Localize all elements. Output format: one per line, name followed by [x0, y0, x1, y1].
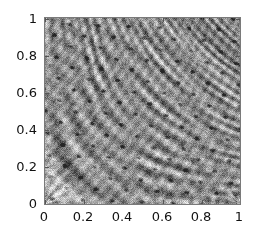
y-tick-mark — [45, 56, 49, 57]
x-tick-mark-top — [240, 18, 241, 22]
y-tick-mark-right — [236, 19, 240, 20]
x-tick-mark — [84, 200, 85, 204]
x-tick-mark — [163, 200, 164, 204]
y-tick-mark-right — [236, 93, 240, 94]
density-plot-figure: 0 0.2 0.4 0.6 0.8 1 0 0.2 0.4 0.6 0.8 1 — [0, 0, 259, 238]
x-tick-mark-top — [123, 18, 124, 22]
density-heatmap-canvas — [45, 18, 240, 204]
y-tick-mark — [45, 167, 49, 168]
y-tick-mark — [45, 130, 49, 131]
x-tick-mark — [202, 200, 203, 204]
y-tick-mark — [45, 204, 49, 205]
y-axis-label-1: 1 — [29, 11, 37, 26]
x-axis-label-1: 1 — [235, 209, 243, 224]
x-axis-label-0-6: 0.6 — [152, 209, 173, 224]
y-axis-label-0: 0 — [29, 196, 37, 211]
y-tick-mark — [45, 19, 49, 20]
x-tick-mark-top — [202, 18, 203, 22]
y-axis-label-0-2: 0.2 — [16, 159, 37, 174]
x-tick-mark-top — [163, 18, 164, 22]
y-axis-label-0-4: 0.4 — [16, 122, 37, 137]
y-tick-mark-right — [236, 130, 240, 131]
x-tick-mark-top — [84, 18, 85, 22]
y-axis-label-0-6: 0.6 — [16, 85, 37, 100]
y-tick-mark-right — [236, 56, 240, 57]
x-tick-mark — [123, 200, 124, 204]
x-axis-label-0-4: 0.4 — [112, 209, 133, 224]
y-tick-mark — [45, 93, 49, 94]
x-tick-mark — [240, 200, 241, 204]
y-tick-mark-right — [236, 204, 240, 205]
y-tick-mark-right — [236, 167, 240, 168]
x-axis-label-0-8: 0.8 — [191, 209, 212, 224]
y-axis-label-0-8: 0.8 — [16, 48, 37, 63]
x-axis-label-0: 0 — [40, 209, 48, 224]
plot-area — [44, 17, 241, 205]
x-axis-label-0-2: 0.2 — [73, 209, 94, 224]
